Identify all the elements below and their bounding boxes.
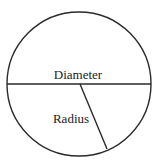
diameter-label: Diameter [54, 67, 103, 82]
circle-diagram: Diameter Radius [0, 0, 157, 161]
radius-label: Radius [53, 111, 89, 126]
